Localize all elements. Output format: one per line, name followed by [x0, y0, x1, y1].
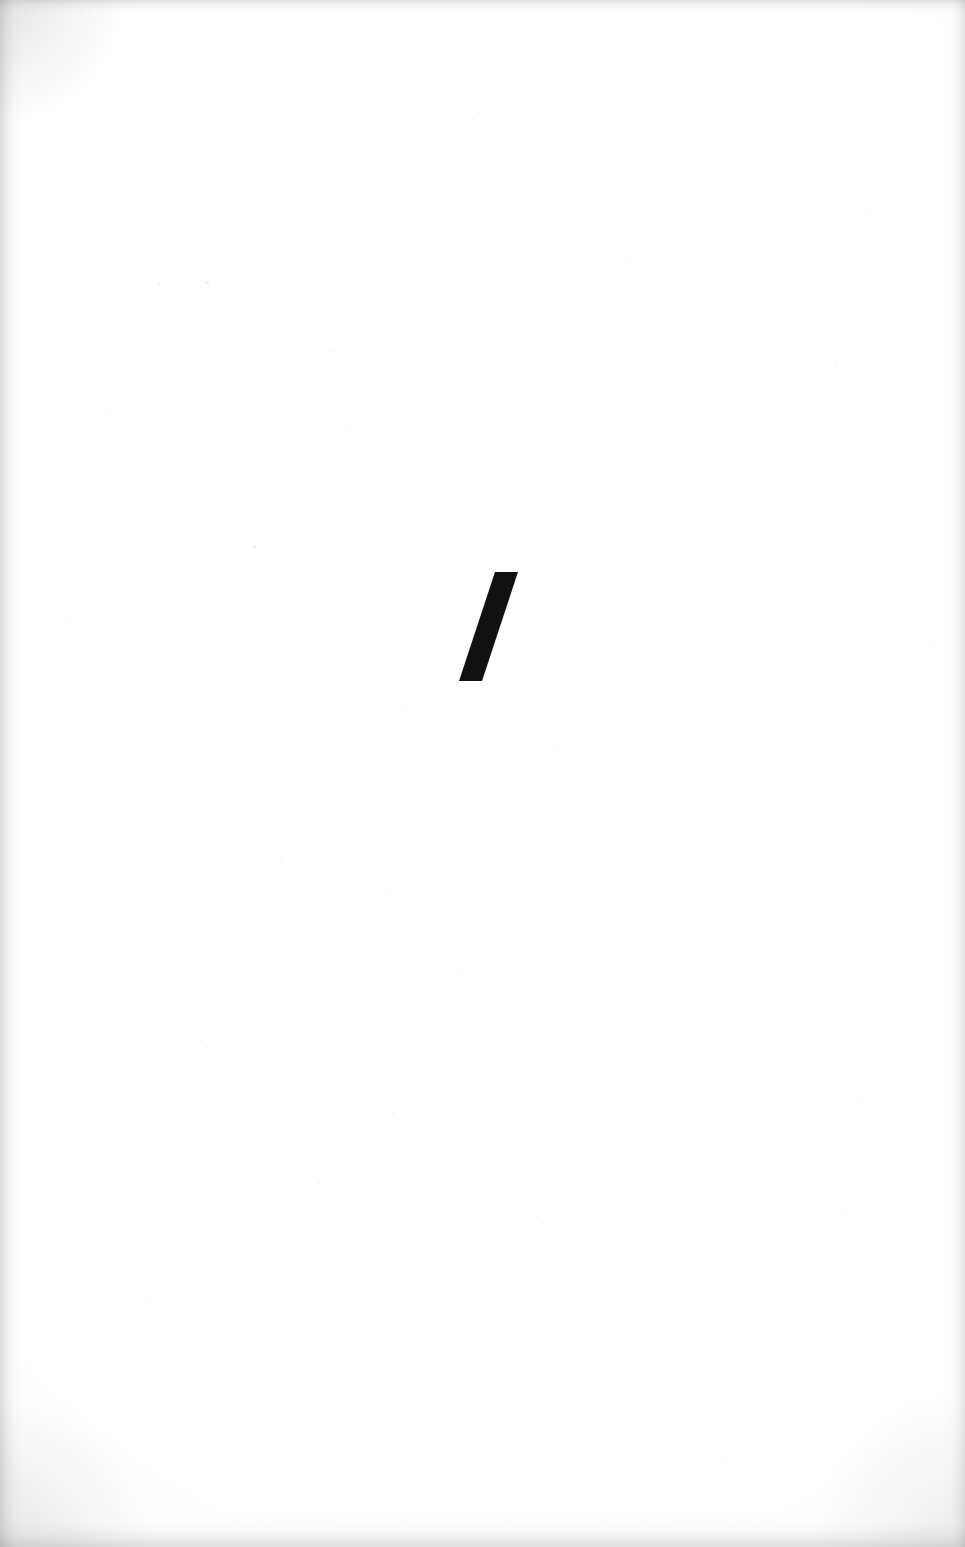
- scan-speck: [109, 412, 111, 414]
- scanned-page: [0, 0, 965, 1547]
- scan-speck: [930, 640, 932, 642]
- ink-layer: [0, 0, 965, 1547]
- scan-speck: [627, 742, 629, 744]
- scan-edge-bottom: [0, 1513, 965, 1547]
- scan-edge-right: [943, 0, 965, 1547]
- scan-speck: [552, 745, 554, 747]
- scan-speck: [430, 1320, 432, 1322]
- scan-speck: [948, 1420, 950, 1422]
- scan-speck: [835, 362, 837, 364]
- scan-speck: [158, 283, 160, 285]
- scan-speck: [844, 1210, 846, 1212]
- scan-speck: [404, 710, 406, 712]
- scan-speck: [150, 1300, 152, 1302]
- scan-speck: [200, 1040, 202, 1042]
- scan-corner-bottom-left: [0, 1397, 150, 1547]
- scan-speck: [478, 112, 480, 114]
- scan-speck: [712, 200, 714, 202]
- scan-speck: [253, 545, 256, 548]
- scan-speck: [55, 960, 57, 962]
- scan-speck: [345, 425, 347, 427]
- scan-speck: [206, 281, 209, 284]
- scan-speck: [908, 1400, 910, 1402]
- scan-speck: [250, 1360, 252, 1362]
- scan-speck: [280, 858, 282, 860]
- scan-edge-left: [0, 0, 26, 1547]
- scan-speck: [670, 1070, 672, 1072]
- scan-speck: [900, 820, 902, 822]
- scan-speck: [290, 1060, 292, 1062]
- scan-speck: [90, 760, 92, 762]
- scan-speck: [860, 1100, 862, 1102]
- scan-speck: [318, 1182, 320, 1184]
- scan-speck: [604, 1240, 606, 1242]
- scan-speck: [124, 1130, 126, 1132]
- scan-speck: [68, 620, 70, 622]
- scan-speck: [600, 1400, 602, 1402]
- scan-speck: [480, 905, 482, 907]
- scan-speck: [512, 103, 514, 105]
- scan-corner-top-left: [0, 0, 120, 120]
- scan-speck: [765, 975, 767, 977]
- scan-speck: [536, 1216, 538, 1218]
- scan-speck: [720, 1460, 722, 1462]
- scan-corner-bottom-right: [815, 1397, 965, 1547]
- scan-speck: [390, 892, 392, 894]
- scan-edge-top: [0, 0, 965, 16]
- scan-speck: [626, 258, 628, 260]
- scan-speck: [872, 1372, 874, 1374]
- scan-speck: [864, 213, 866, 215]
- scan-speck: [458, 970, 460, 972]
- slash-stroke-mark: [455, 568, 522, 685]
- scan-speckle-layer: [0, 0, 965, 1547]
- scan-speck: [392, 1112, 394, 1114]
- paper-background: [0, 0, 965, 1547]
- scan-speck: [944, 905, 946, 907]
- scan-speck: [332, 350, 334, 352]
